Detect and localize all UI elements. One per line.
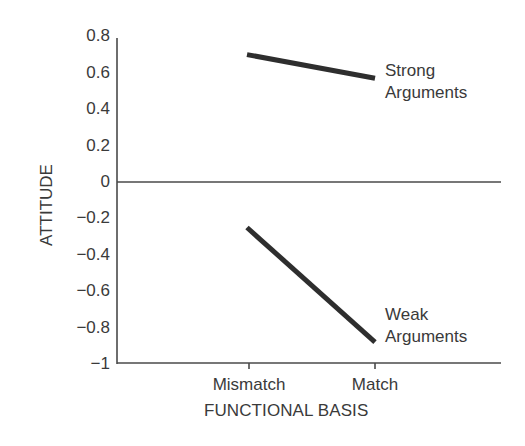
series-line-weak	[247, 228, 375, 343]
y-tick-label: −0.6	[50, 282, 110, 300]
y-tick-label: 0	[50, 173, 110, 191]
x-axis-title: FUNCTIONAL BASIS	[204, 402, 368, 420]
y-axis-title: ATTITUDE	[38, 164, 56, 246]
y-tick-label: 0.8	[50, 27, 110, 45]
series-label-strong-line2: Arguments	[385, 82, 467, 104]
series-label-weak-line2: Arguments	[385, 326, 467, 348]
series-label-weak: Weak Arguments	[385, 304, 467, 348]
y-tick-label: 0.6	[50, 64, 110, 82]
series-label-strong: Strong Arguments	[385, 60, 467, 104]
y-tick-label: 0.4	[50, 100, 110, 118]
y-tick-label: −0.8	[50, 319, 110, 337]
y-tick-label: −1	[50, 355, 110, 373]
series-label-weak-line1: Weak	[385, 304, 467, 326]
y-tick-label: −0.2	[50, 209, 110, 227]
series-label-strong-line1: Strong	[385, 60, 467, 82]
series-line-strong	[247, 55, 375, 79]
x-tick-label-mismatch: Mismatch	[189, 376, 309, 394]
line-chart: 0.80.60.40.20−0.2−0.4−0.6−0.8−1 Mismatch…	[0, 0, 525, 446]
x-tick-label-match: Match	[315, 376, 435, 394]
series-layer	[247, 55, 375, 343]
y-tick-label: 0.2	[50, 137, 110, 155]
y-tick-label: −0.4	[50, 246, 110, 264]
